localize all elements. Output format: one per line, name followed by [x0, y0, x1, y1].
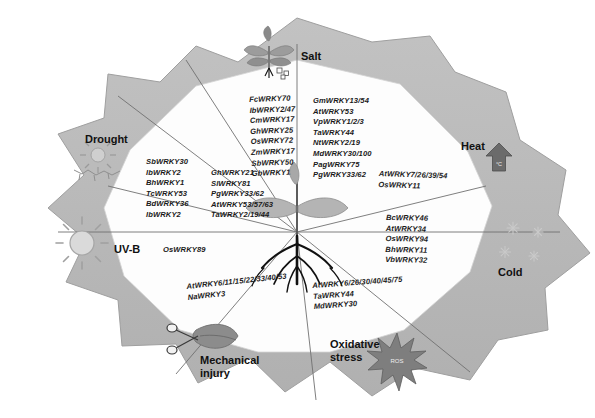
mechanical-injury-label-line2: injury: [200, 367, 230, 379]
stress-flower-diagram: °C: [0, 0, 595, 418]
category-label-heat: Heat: [461, 140, 485, 153]
gene-list-uv-b: OsWRKY89: [163, 245, 206, 256]
gene-list-heat: AtWRKY7/26/39/54 OsWRKY11: [378, 169, 447, 193]
mechanical-injury-label-line1: Mechanical: [200, 354, 259, 366]
oxidative-stress-label-line2: stress: [330, 351, 362, 363]
gene-list-drought-col2: GhWRKY21 SlWRKY81 PgWRKY33/62 AtWRKY53/5…: [211, 168, 273, 221]
category-label-mechanical-injury: Mechanical injury: [200, 354, 259, 380]
sun-rays-icon: [56, 217, 108, 269]
svg-text:°C: °C: [496, 161, 502, 167]
ros-icon-text: ROS: [390, 358, 403, 364]
gene-list-salt-col2: GmWRKY13/54 AtWRKY53 VpWRKY1/2/3 TaWRKY4…: [313, 96, 372, 181]
gene-list-salt-col1: FcWRKY70 IbWRKY2/47 CmWRKY17 GhWRKY25 Os…: [249, 93, 298, 179]
oxidative-stress-label-line1: Oxidative: [330, 338, 380, 350]
gene-list-oxidative-stress: AtWRKY6/26/30/40/45/75 TaWRKY44 MdWRKY30: [312, 275, 404, 313]
gene-list-cold: BcWRKY46 AtWRKY34 OsWRKY94 BhWRKY11 VbWR…: [385, 213, 428, 267]
category-label-uv-b: UV-B: [114, 243, 140, 256]
category-label-drought: Drought: [85, 133, 128, 146]
category-label-salt: Salt: [301, 50, 321, 63]
gene-list-drought-col1: SbWRKY30 IbWRKY2 BhWRKY1 TcWRKY53 BdWRKY…: [146, 157, 189, 221]
category-label-oxidative-stress: Oxidative stress: [330, 338, 380, 364]
category-label-cold: Cold: [498, 266, 522, 279]
figure-canvas: °C: [0, 0, 595, 418]
